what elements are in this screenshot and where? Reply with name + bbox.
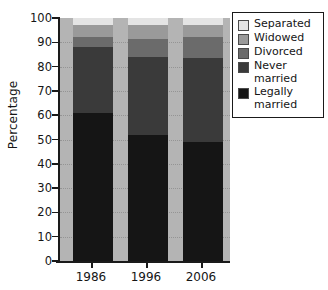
bar-2006 <box>183 18 223 261</box>
bar-segment-2006-never-married <box>183 58 223 142</box>
bar-segment-2006-widowed <box>183 25 223 37</box>
bar-segment-1996-separated <box>128 18 168 25</box>
y-tick-label-70: 70 <box>37 86 52 96</box>
bar-segment-1986-separated <box>73 18 113 25</box>
bar-segment-1986-widowed <box>73 25 113 37</box>
x-tick-mark-1996 <box>146 263 148 268</box>
legend-swatch-legally-married <box>238 88 249 99</box>
legend-label-legally-married: Legally married <box>254 86 297 111</box>
bar-segment-1996-never-married <box>128 57 168 135</box>
x-tick-label-1986: 1986 <box>61 270 121 284</box>
legend-swatch-divorced <box>238 48 249 59</box>
bar-1986 <box>73 18 113 261</box>
legend-label-widowed: Widowed <box>254 32 304 45</box>
legend: SeparatedWidowedDivorcedNever marriedLeg… <box>232 12 324 118</box>
bar-segment-2006-legally-married <box>183 142 223 261</box>
y-tick-label-100: 100 <box>30 13 52 23</box>
bar-segment-1996-legally-married <box>128 135 168 261</box>
y-tick-label-50: 50 <box>37 135 52 145</box>
y-tick-label-0: 0 <box>45 256 52 266</box>
x-tick-label-2006: 2006 <box>171 270 231 284</box>
y-axis-title-container: Percentage <box>0 0 22 262</box>
bars-container <box>60 18 230 261</box>
y-axis-top-cap <box>56 17 60 19</box>
y-tick-label-80: 80 <box>37 62 52 72</box>
legend-label-divorced: Divorced <box>254 46 303 59</box>
y-axis-title: Percentage <box>6 60 20 170</box>
bar-1996 <box>128 18 168 261</box>
y-tick-label-10: 10 <box>37 232 52 242</box>
y-tick-label-60: 60 <box>37 110 52 120</box>
bar-segment-1986-never-married <box>73 47 113 113</box>
legend-item-never-married[interactable]: Never married <box>238 60 319 85</box>
x-tick-mark-1986 <box>91 263 93 268</box>
x-tick-mark-2006 <box>201 263 203 268</box>
x-tick-label-1996: 1996 <box>116 270 176 284</box>
plot-area <box>58 18 230 261</box>
bar-segment-1996-divorced <box>128 39 168 57</box>
bar-segment-1986-divorced <box>73 37 113 47</box>
legend-item-legally-married[interactable]: Legally married <box>238 86 319 111</box>
legend-item-separated[interactable]: Separated <box>238 18 319 31</box>
x-axis-line <box>56 261 230 263</box>
legend-swatch-separated <box>238 20 249 31</box>
bar-segment-2006-separated <box>183 18 223 25</box>
bar-segment-1986-legally-married <box>73 113 113 261</box>
y-tick-label-90: 90 <box>37 37 52 47</box>
legend-label-separated: Separated <box>254 18 311 31</box>
bar-segment-2006-divorced <box>183 37 223 58</box>
y-tick-label-20: 20 <box>37 207 52 217</box>
y-tick-label-30: 30 <box>37 183 52 193</box>
bar-segment-1996-widowed <box>128 25 168 38</box>
y-tick-label-40: 40 <box>37 159 52 169</box>
legend-label-never-married: Never married <box>254 60 297 85</box>
legend-item-widowed[interactable]: Widowed <box>238 32 319 45</box>
legend-swatch-widowed <box>238 34 249 45</box>
legend-swatch-never-married <box>238 62 249 73</box>
legend-item-divorced[interactable]: Divorced <box>238 46 319 59</box>
stacked-bar-chart: Percentage 0102030405060708090100 198619… <box>0 0 328 290</box>
y-axis-tick-labels: 0102030405060708090100 <box>20 0 52 262</box>
